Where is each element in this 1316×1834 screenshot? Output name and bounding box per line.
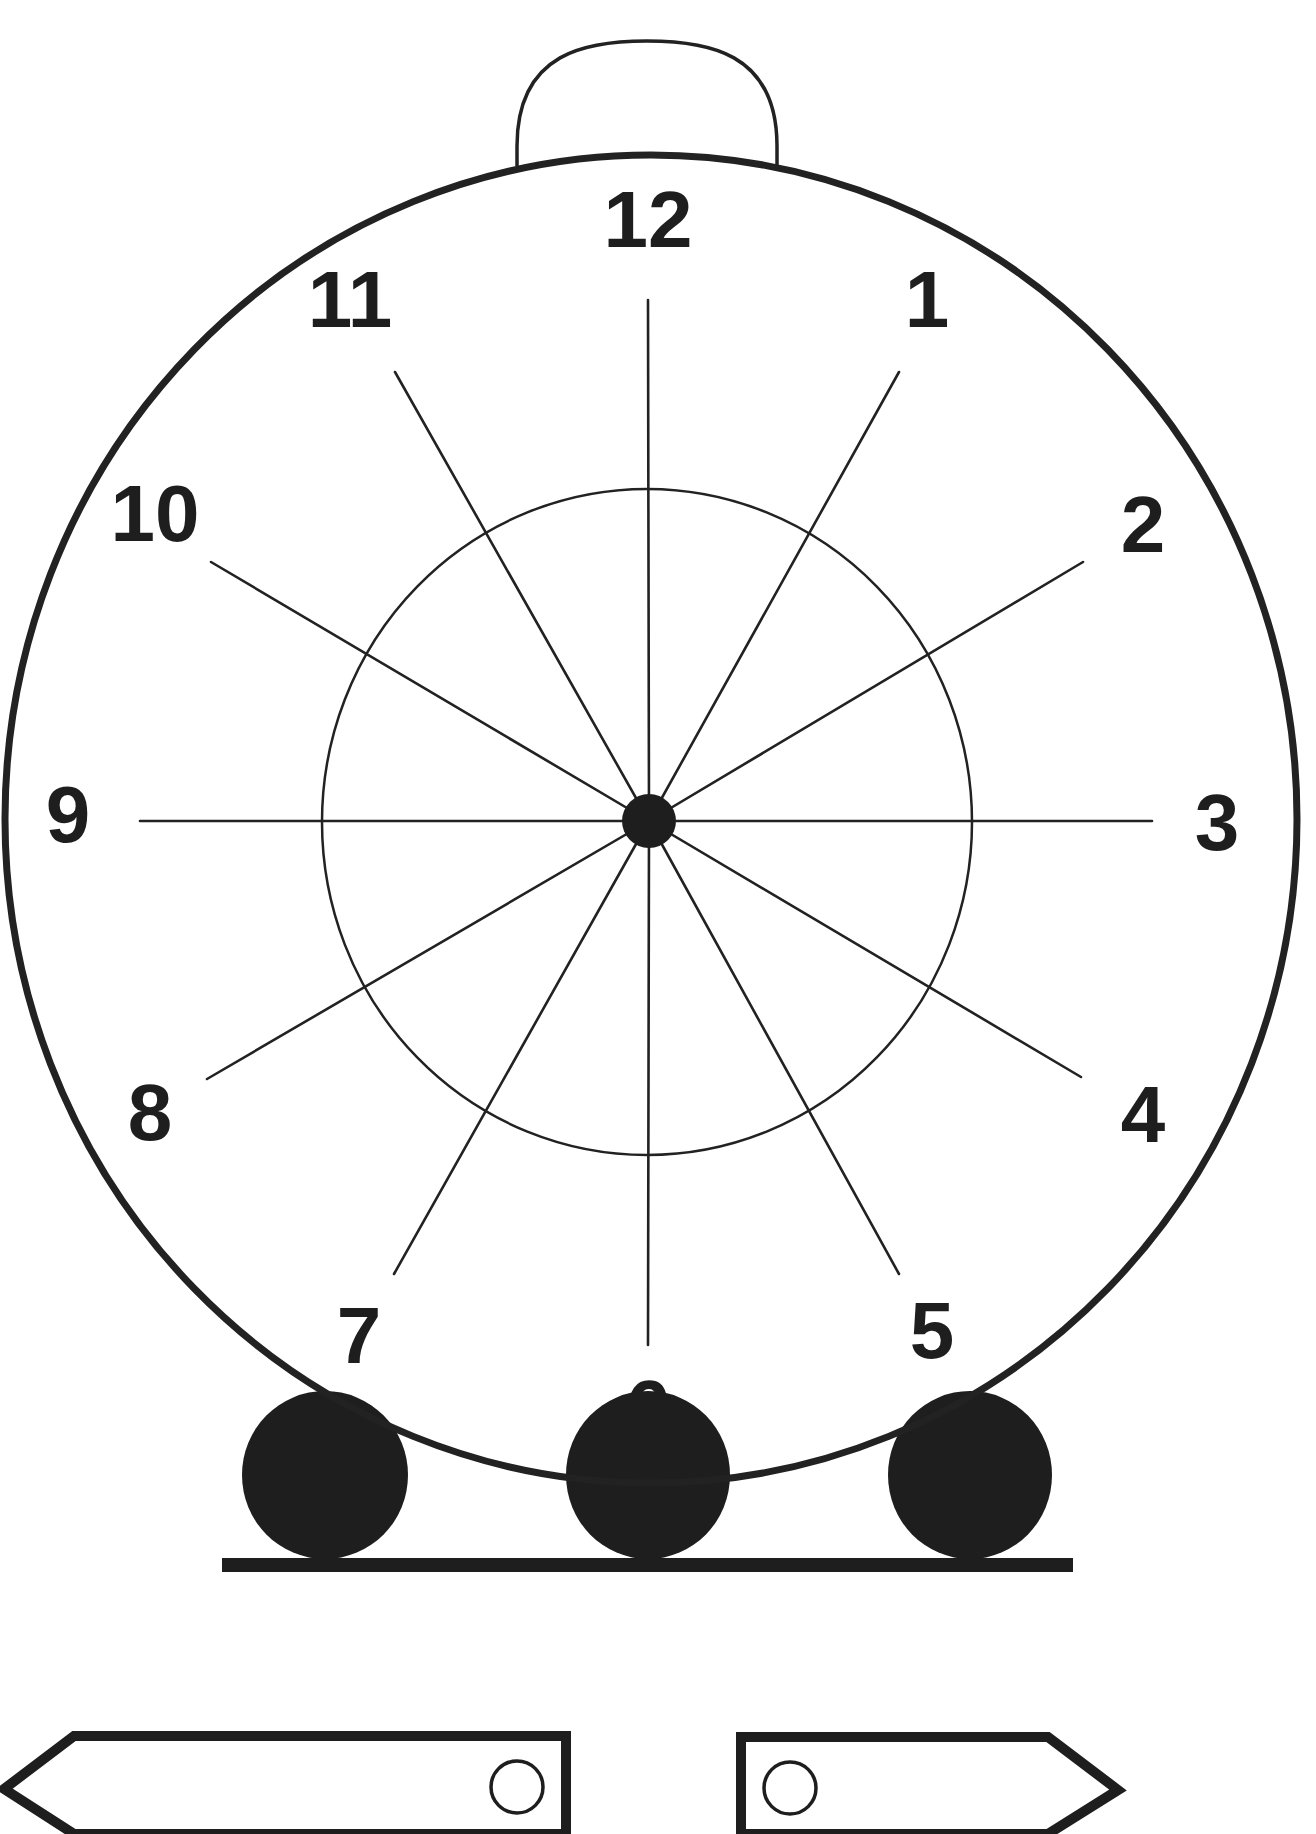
spoke-2 (649, 562, 1083, 821)
hour-number-10: 10 (111, 469, 200, 558)
spoke-11 (395, 372, 649, 821)
short-hand[interactable] (741, 1737, 1118, 1834)
hour-number-12: 12 (604, 175, 693, 264)
spoke-4 (649, 821, 1081, 1077)
hour-number-4: 4 (1121, 1070, 1166, 1159)
stand-foot-right (888, 1391, 1052, 1559)
spoke-6 (648, 821, 649, 1345)
spoke-1 (649, 372, 899, 821)
hour-number-7: 7 (337, 1291, 382, 1380)
hour-number-1: 1 (905, 255, 950, 344)
hour-number-3: 3 (1195, 778, 1240, 867)
stand-foot-left (242, 1391, 408, 1559)
hour-number-2: 2 (1121, 480, 1166, 569)
spoke-10 (211, 562, 649, 821)
spoke-12 (648, 300, 649, 821)
spoke-8 (207, 821, 649, 1079)
hour-number-9: 9 (46, 770, 91, 859)
long-hand[interactable] (4, 1736, 566, 1834)
short-hand-outline (741, 1737, 1118, 1834)
hour-number-11: 11 (308, 255, 393, 344)
hour-number-5: 5 (910, 1286, 955, 1375)
clock-center-hub (622, 794, 676, 848)
hour-number-8: 8 (128, 1068, 173, 1157)
cutout-hands (4, 1736, 1118, 1834)
clock-top-bell (517, 41, 777, 166)
spoke-5 (649, 821, 899, 1274)
hour-number-6: 6 (626, 1364, 671, 1453)
spoke-7 (394, 821, 649, 1274)
stand-base-bar (222, 1558, 1073, 1572)
clock-template-canvas: 121234567891011 (0, 0, 1316, 1834)
long-hand-outline (4, 1736, 566, 1834)
